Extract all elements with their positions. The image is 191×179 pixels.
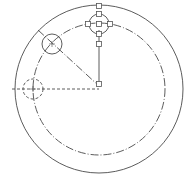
grip-handle-icon[interactable] xyxy=(97,4,102,9)
grip-handle-icon[interactable] xyxy=(97,82,102,87)
cad-drawing-canvas[interactable] xyxy=(0,0,191,179)
grip-handle-icon[interactable] xyxy=(97,32,102,37)
grip-handle-icon[interactable] xyxy=(97,12,102,17)
grip-handle-icon[interactable] xyxy=(97,22,102,27)
grip-handle-icon[interactable] xyxy=(108,22,113,27)
holes-layer xyxy=(23,14,109,99)
grip-handle-icon[interactable] xyxy=(86,22,91,27)
diagonal-radius-line[interactable] xyxy=(38,30,99,86)
cad-drawing[interactable] xyxy=(0,0,191,179)
grip-handle-icon[interactable] xyxy=(97,42,102,47)
